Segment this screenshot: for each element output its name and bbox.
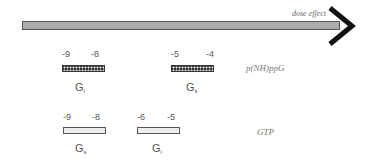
ligand-label-gtp: GTP — [257, 127, 274, 137]
range-bar-gs-pnhppg — [171, 65, 214, 72]
range-bar-gi-gtp — [137, 127, 180, 134]
protein-label-gi: Gi — [152, 142, 162, 155]
arrow-head-icon — [326, 6, 356, 46]
range-to-tick: -8 — [91, 49, 99, 59]
dose-effect-label: dose effect — [292, 9, 326, 18]
range-to-tick: -5 — [167, 112, 175, 122]
range-to-tick: -4 — [206, 49, 214, 59]
range-from-tick: -6 — [137, 112, 145, 122]
protein-label-gs: Gs — [186, 81, 198, 94]
range-from-tick: -9 — [62, 49, 70, 59]
range-bar-gi-pnhppg — [62, 65, 105, 72]
range-from-tick: -5 — [171, 49, 179, 59]
protein-label-gs: Gs — [75, 142, 87, 155]
range-bar-gs-gtp — [63, 127, 106, 134]
dose-effect-arrow-shaft — [22, 21, 340, 30]
range-to-tick: -8 — [92, 112, 100, 122]
range-from-tick: -9 — [63, 112, 71, 122]
protein-label-gi: Gi — [75, 81, 85, 94]
ligand-label-pnhppg: p(NH)ppG — [246, 63, 285, 73]
